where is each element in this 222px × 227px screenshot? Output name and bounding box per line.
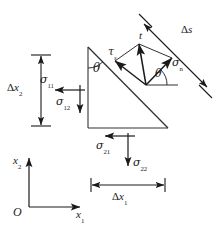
label-traction-t: t bbox=[139, 30, 142, 41]
stress-element-figure: Δx2 σ11 σ12 σ21 σ22 θ θ t τs σn Δs Δx1 O… bbox=[0, 0, 222, 227]
tau-subscript: s bbox=[114, 54, 117, 61]
sigma-symbol-22: σ bbox=[133, 156, 141, 169]
label-sigma-n: σn bbox=[172, 57, 183, 71]
triangle-element bbox=[88, 47, 168, 128]
label-delta-s: Δs bbox=[181, 24, 192, 35]
sigma-11-subscript: 11 bbox=[48, 82, 54, 89]
sigma-22-subscript: 22 bbox=[141, 165, 147, 172]
label-origin: O bbox=[13, 206, 22, 218]
triangle-inclined-face bbox=[88, 47, 168, 128]
label-sigma-22: σ22 bbox=[133, 157, 147, 171]
label-theta-face: θ bbox=[93, 62, 100, 74]
axis-x1-subscript: 1 bbox=[81, 217, 84, 224]
delta-x1-subscript: 1 bbox=[124, 199, 127, 206]
traction-vector-group bbox=[115, 44, 178, 85]
delta-x1-dimension bbox=[91, 178, 165, 192]
axis-x2-subscript: 2 bbox=[18, 163, 21, 170]
shear-stress-vector bbox=[115, 61, 146, 85]
traction-vector-t bbox=[139, 44, 146, 85]
sigma-symbol-11: σ bbox=[40, 73, 48, 86]
label-sigma-12: σ12 bbox=[56, 96, 70, 110]
sigma-symbol-21: σ bbox=[96, 139, 104, 152]
parallelogram-side-right bbox=[139, 44, 172, 58]
label-theta-vector: θ bbox=[155, 68, 162, 79]
label-axis-x2: x2 bbox=[13, 155, 21, 169]
sigma-21-subscript: 21 bbox=[104, 148, 110, 155]
sigma-symbol-12: σ bbox=[56, 95, 64, 108]
label-delta-x1: Δx1 bbox=[112, 191, 127, 205]
label-sigma-11: σ11 bbox=[40, 74, 54, 88]
sigma-n-symbol: σ bbox=[172, 56, 180, 69]
coordinate-axes bbox=[29, 158, 80, 207]
delta-x2-dimension bbox=[31, 55, 51, 126]
sigma-12-subscript: 12 bbox=[64, 104, 70, 111]
label-sigma-21: σ21 bbox=[96, 140, 110, 154]
label-tau-s: τs bbox=[108, 46, 117, 60]
sigma-n-subscript: n bbox=[180, 65, 183, 72]
delta-x2-subscript: 2 bbox=[19, 90, 22, 97]
delta-s-tick-bottom bbox=[199, 85, 212, 98]
label-delta-x2: Δx2 bbox=[7, 82, 22, 96]
parallelogram-side-left bbox=[115, 44, 139, 61]
delta-s-base: s bbox=[188, 23, 192, 35]
label-axis-x1: x1 bbox=[76, 209, 84, 223]
